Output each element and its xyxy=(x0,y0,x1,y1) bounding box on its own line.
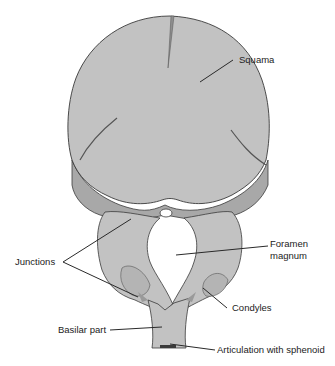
lateral-part-right xyxy=(168,212,242,312)
label-squama: Squama xyxy=(239,54,274,65)
emissary-foramen xyxy=(160,209,172,217)
label-foramen-magnum-line2: magnum xyxy=(270,250,307,261)
occipital-bone-diagram xyxy=(0,0,335,366)
label-foramen-magnum-line1: Foramen xyxy=(270,238,308,249)
label-condyles: Condyles xyxy=(232,302,272,313)
label-junctions: Junctions xyxy=(15,256,55,267)
label-articulation-with-sphenoid: Articulation with sphenoid xyxy=(217,344,325,355)
label-basilar-part: Basilar part xyxy=(58,324,106,335)
squama-region xyxy=(68,16,269,204)
